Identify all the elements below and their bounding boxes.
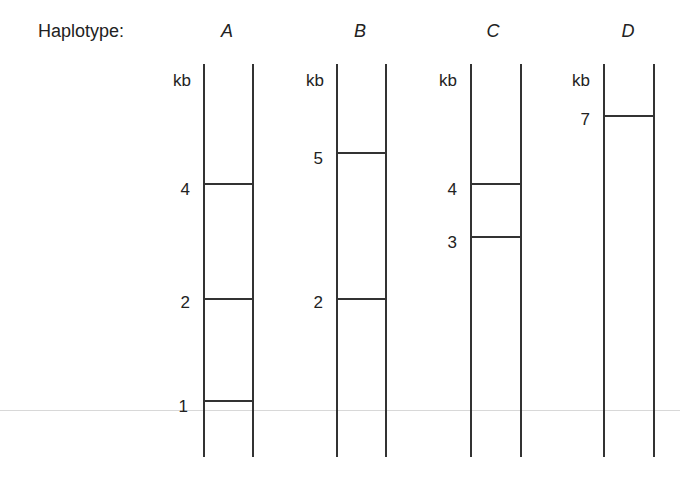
lane-b-band-2 xyxy=(336,298,386,300)
lane-c-band-4 xyxy=(470,183,521,185)
lane-a-left-line xyxy=(203,64,205,457)
lane-b-kb-label: kb xyxy=(306,71,324,91)
lane-d-left-line xyxy=(603,64,605,457)
lane-d-letter: D xyxy=(622,21,635,42)
lane-b-band-5 xyxy=(336,152,386,154)
lane-d-size-7: 7 xyxy=(560,110,590,130)
lane-a-band-1 xyxy=(203,400,253,402)
lane-d-band-7 xyxy=(603,115,654,117)
lane-b-letter: B xyxy=(354,21,366,42)
lane-c-size-4: 4 xyxy=(427,180,457,200)
lane-c-letter: C xyxy=(487,21,500,42)
lane-c-band-3 xyxy=(470,236,521,238)
lane-a-letter: A xyxy=(221,21,233,42)
lane-b-left-line xyxy=(336,64,338,457)
lane-d-kb-label: kb xyxy=(572,71,590,91)
faint-scan-line xyxy=(0,410,680,411)
lane-b-right-line xyxy=(385,64,387,457)
haplotype-header-label: Haplotype: xyxy=(38,21,124,42)
lane-a-size-2: 2 xyxy=(160,293,190,313)
lane-b-size-2: 2 xyxy=(293,293,323,313)
lane-c-right-line xyxy=(520,64,522,457)
lane-b-size-5: 5 xyxy=(293,149,323,169)
lane-c-kb-label: kb xyxy=(439,71,457,91)
lane-a-size-4: 4 xyxy=(160,180,190,200)
lane-a-kb-label: kb xyxy=(173,71,191,91)
lane-c-left-line xyxy=(470,64,472,457)
lane-a-band-2 xyxy=(203,298,253,300)
lane-a-right-line xyxy=(252,64,254,457)
lane-c-size-3: 3 xyxy=(427,233,457,253)
lane-a-band-4 xyxy=(203,183,253,185)
lane-d-right-line xyxy=(653,64,655,457)
lane-a-size-1: 1 xyxy=(158,397,188,417)
